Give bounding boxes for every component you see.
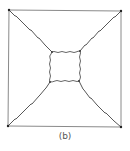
figure-caption: (b) <box>0 131 130 141</box>
connector-bottom-right <box>79 81 121 127</box>
corner-dot-inner-bottom-left <box>49 81 51 83</box>
diagram-figure: (b) <box>0 0 130 151</box>
corner-dot-inner-top-left <box>51 51 53 53</box>
inner-square <box>50 51 81 82</box>
square-frame-diagram <box>0 0 130 151</box>
connector-top-right <box>80 11 121 51</box>
corner-dot-inner-top-right <box>79 50 81 52</box>
corner-dot-outer-bottom-left <box>7 125 9 127</box>
corner-dot-outer-top-right <box>120 10 122 12</box>
corner-dot-outer-top-left <box>8 9 10 11</box>
corner-dot-outer-bottom-right <box>120 126 122 128</box>
corner-dot-inner-bottom-right <box>78 80 80 82</box>
connector-bottom-left <box>8 82 50 126</box>
connector-top-left <box>9 10 52 52</box>
